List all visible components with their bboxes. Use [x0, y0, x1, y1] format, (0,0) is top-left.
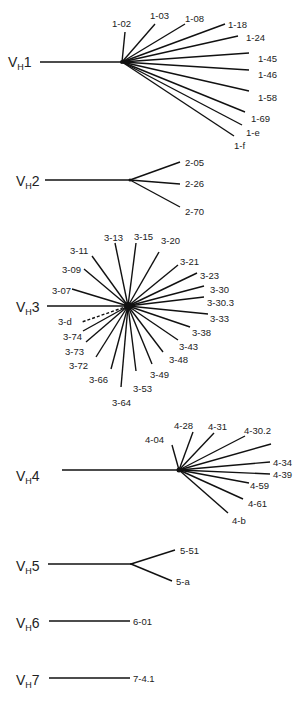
gene-label: 3-21 [180, 256, 199, 267]
family-vh1: VH11-021-031-081-181-241-451-461-581-691… [8, 10, 277, 151]
gene-label: 3-09 [62, 264, 81, 275]
branch-node [124, 302, 132, 310]
gene-label: 1-45 [258, 53, 277, 64]
gene-label: 4-59 [250, 480, 269, 491]
gene-label: 3-30 [210, 284, 229, 295]
gene-label: 4-28 [174, 420, 193, 431]
gene-label: 3-38 [192, 327, 211, 338]
gene-label: 3-11 [70, 245, 88, 256]
gene-label: 5-a [176, 576, 190, 587]
gene-branch [172, 445, 179, 470]
gene-label: 2-70 [185, 206, 204, 217]
gene-label: 3-49 [150, 369, 169, 380]
gene-branch [130, 162, 180, 180]
gene-label: 4-31 [208, 421, 227, 432]
gene-branch [128, 243, 136, 306]
gene-label: 1-f [234, 140, 245, 151]
gene-label: 7-4.1 [133, 673, 155, 684]
gene-label: 3-64 [112, 397, 131, 408]
gene-branch [122, 62, 242, 125]
branch-node [130, 563, 132, 565]
gene-label: 1-24 [246, 32, 265, 43]
gene-label: 4-30.2 [244, 425, 271, 436]
branch-node [129, 179, 132, 182]
family-vh5: VH55-515-a [16, 545, 199, 587]
gene-label: 3-74 [63, 331, 82, 342]
gene-branch [72, 289, 128, 306]
family-vh4: VH44-044-284-314-30.24-344-394-594-614-b [16, 420, 292, 526]
gene-label: 1-69 [251, 113, 270, 124]
gene-label: 3-53 [133, 383, 152, 394]
family-label: VH5 [16, 558, 40, 576]
gene-label: 4-34 [273, 457, 292, 468]
gene-branch [122, 62, 245, 112]
family-label: VH2 [16, 173, 40, 191]
gene-label: 3-15 [134, 231, 153, 242]
gene-label: 3-33 [210, 313, 229, 324]
gene-label: 3-23 [200, 270, 219, 281]
gene-label: 3-66 [89, 374, 108, 385]
family-label: VH7 [16, 672, 40, 690]
gene-label: 2-05 [185, 157, 204, 168]
gene-branch [96, 306, 128, 357]
gene-label: 3-d [58, 316, 72, 327]
gene-label: 1-03 [150, 10, 169, 21]
gene-branch [179, 470, 243, 499]
gene-label: 3-43 [179, 341, 198, 352]
gene-label: 1-46 [258, 69, 277, 80]
gene-branch [83, 306, 128, 331]
branch-node [120, 60, 124, 64]
gene-label: 1-18 [228, 19, 247, 30]
gene-label: 6-01 [133, 616, 152, 627]
family-vh7: VH77-4.1 [16, 672, 155, 690]
gene-branch [82, 306, 128, 322]
family-vh3: VH33-133-153-203-113-213-093-233-073-303… [16, 231, 234, 408]
gene-label: 5-51 [180, 545, 199, 556]
gene-label: 1-e [246, 127, 260, 138]
family-label: VH1 [8, 54, 32, 72]
gene-branch [86, 306, 128, 342]
family-vh6: VH66-01 [16, 615, 152, 633]
gene-label: 3-48 [169, 354, 188, 365]
gene-label: 4-39 [273, 469, 292, 480]
family-label: VH3 [16, 299, 40, 317]
gene-label: 1-08 [185, 13, 204, 24]
family-label: VH4 [16, 468, 40, 486]
gene-label: 1-58 [258, 92, 277, 103]
gene-label: 3-73 [65, 346, 84, 357]
gene-label: 3-20 [161, 235, 180, 246]
gene-branch [122, 24, 185, 62]
gene-branch [122, 62, 234, 136]
family-vh2: VH22-052-262-70 [16, 157, 204, 217]
gene-label: 4-61 [248, 498, 267, 509]
gene-label: 1-02 [112, 18, 131, 29]
gene-branch [122, 32, 125, 62]
gene-branch [131, 564, 172, 581]
gene-label: 2-26 [185, 178, 204, 189]
gene-branch [179, 470, 228, 513]
branch-node [177, 468, 182, 473]
gene-label: 4-b [232, 515, 246, 526]
gene-label: 4-04 [145, 434, 164, 445]
gene-label: 3-13 [104, 232, 123, 243]
gene-label: 3-72 [69, 360, 88, 371]
gene-branch [128, 297, 204, 306]
vh-family-dendrogram: VH11-021-031-081-181-241-451-461-581-691… [0, 0, 302, 701]
gene-label: 3-07 [52, 285, 71, 296]
gene-branch [131, 550, 175, 564]
family-label: VH6 [16, 615, 40, 633]
gene-label: 3-30.3 [207, 297, 234, 308]
